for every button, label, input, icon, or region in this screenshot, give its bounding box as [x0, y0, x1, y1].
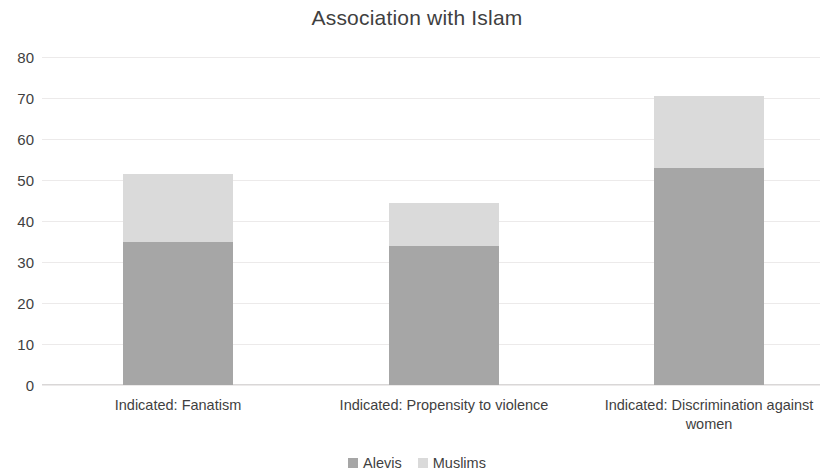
bar-segment-alevis[interactable]	[654, 168, 764, 385]
legend-label: Alevis	[363, 455, 402, 471]
x-axis-category-label: Indicated: Fanatism	[63, 396, 293, 415]
legend-label: Muslims	[433, 455, 486, 471]
chart-legend: AlevisMuslims	[0, 455, 834, 471]
legend-item[interactable]: Muslims	[418, 455, 486, 471]
gridline	[42, 57, 820, 58]
legend-swatch-icon	[348, 458, 358, 468]
bar-column[interactable]	[654, 96, 764, 385]
bar-segment-muslims[interactable]	[123, 174, 233, 242]
gridline	[42, 385, 820, 386]
x-axis-category-label: Indicated: Discrimination against women	[594, 396, 824, 434]
plot-area	[42, 57, 820, 385]
bar-column[interactable]	[389, 203, 499, 385]
x-axis-category-labels: Indicated: FanatismIndicated: Propensity…	[42, 396, 820, 446]
legend-swatch-icon	[418, 458, 428, 468]
bar-segment-muslims[interactable]	[654, 96, 764, 168]
y-axis-tick-label: 0	[0, 378, 34, 393]
y-axis-tick-label: 50	[0, 173, 34, 188]
chart-container: Association with Islam 80706050403020100…	[0, 0, 834, 476]
x-axis-category-label: Indicated: Propensity to violence	[329, 396, 559, 415]
y-axis-tick-label: 60	[0, 132, 34, 147]
bar-segment-muslims[interactable]	[389, 203, 499, 246]
bar-segment-alevis[interactable]	[123, 242, 233, 386]
y-axis-tick-label: 70	[0, 91, 34, 106]
bar-segment-alevis[interactable]	[389, 246, 499, 385]
y-axis: 80706050403020100	[0, 57, 34, 385]
y-axis-tick-label: 40	[0, 214, 34, 229]
y-axis-tick-label: 20	[0, 296, 34, 311]
legend-item[interactable]: Alevis	[348, 455, 402, 471]
bar-column[interactable]	[123, 174, 233, 385]
y-axis-tick-label: 10	[0, 337, 34, 352]
y-axis-tick-label: 80	[0, 50, 34, 65]
chart-title: Association with Islam	[0, 6, 834, 30]
y-axis-tick-label: 30	[0, 255, 34, 270]
